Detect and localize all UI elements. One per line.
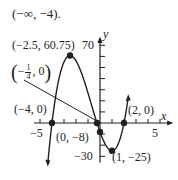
point-label-neg4: (−4, 0) [14, 103, 47, 115]
fraction-one-quarter: 14 [25, 64, 31, 81]
key-point-dot [67, 52, 73, 58]
key-point-dot [94, 120, 100, 126]
point-label-neg-quarter: (−14, 0) [11, 62, 51, 82]
arrowheads [45, 36, 173, 166]
key-point-dot [121, 120, 127, 126]
point-label-2: (2, 0) [128, 104, 154, 116]
x-axis-label: x [161, 110, 166, 122]
key-point-dot [49, 120, 55, 126]
x-tick-label-5: 5 [152, 127, 158, 139]
key-point-dot [97, 129, 103, 135]
x-tick-label-neg5: −5 [30, 127, 43, 139]
y-tick-label-70: 70 [82, 39, 94, 51]
minus-sign: − [18, 64, 25, 78]
function-curve [48, 56, 128, 164]
point-label-y-intercept: (0, −8) [56, 131, 89, 143]
point-label-local-max: (−2.5, 60.75) [12, 39, 75, 51]
point-label-local-min: (1, −25) [112, 151, 151, 163]
y-axis-label: y [103, 28, 108, 40]
y-tick-label-neg30: −30 [74, 150, 93, 162]
